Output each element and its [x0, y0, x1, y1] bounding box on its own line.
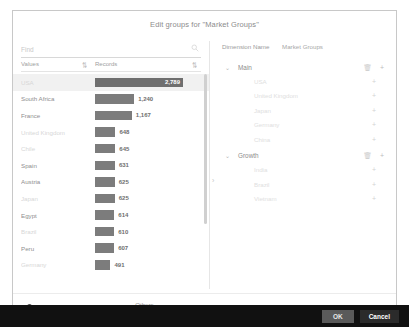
group-item[interactable]: China+ — [222, 132, 388, 147]
record-value: 648 — [119, 129, 129, 135]
cancel-button[interactable]: Cancel — [360, 310, 399, 323]
column-header-records-label: Records — [95, 61, 117, 67]
groups-container: ⌄Main🗑+USA+United Kingdom+Japan+Germany+… — [222, 60, 388, 206]
group-header[interactable]: ⌄Main🗑+ — [222, 60, 388, 74]
record-value: 2,789 — [165, 79, 183, 85]
group-header[interactable]: ⌄Growth🗑+ — [222, 149, 388, 163]
record-bar-cell: 491 — [95, 260, 201, 270]
dialog-title: Edit groups for "Market Groups" — [150, 20, 259, 29]
plus-icon[interactable]: + — [380, 64, 384, 71]
group-item[interactable]: Brazil+ — [222, 177, 388, 192]
values-list-scrollbar[interactable] — [204, 74, 207, 224]
edit-groups-dialog: Edit groups for "Market Groups" Values ⇅… — [12, 10, 397, 315]
plus-icon[interactable]: + — [372, 92, 388, 99]
value-label: Chile — [21, 145, 95, 152]
values-list[interactable]: USA2,789South Africa1,240France1,167Unit… — [13, 74, 209, 293]
group-item-label: USA — [254, 78, 372, 85]
group-actions: 🗑+ — [363, 152, 388, 159]
dialog-body: Values ⇅ Records ⇅ USA2,789South Africa1… — [13, 37, 396, 293]
value-label: Egypt — [21, 212, 95, 219]
record-bar — [95, 111, 132, 121]
value-label: Peru — [21, 245, 95, 252]
value-label: Brazil — [21, 228, 95, 235]
record-bar-cell: 2,789 — [95, 78, 201, 88]
plus-icon[interactable]: + — [380, 152, 384, 159]
group-item-label: China — [254, 136, 372, 143]
group: ⌄Main🗑+USA+United Kingdom+Japan+Germany+… — [222, 60, 388, 147]
record-bar — [95, 177, 115, 187]
record-value: 645 — [119, 146, 129, 152]
group-item[interactable]: USA+ — [222, 74, 388, 89]
record-bar — [95, 127, 115, 137]
record-value: 491 — [114, 262, 124, 268]
record-bar-cell: 625 — [95, 177, 201, 187]
group-name[interactable]: Main — [232, 64, 363, 71]
value-label: France — [21, 112, 95, 119]
table-row[interactable]: Germany491 — [13, 257, 209, 274]
record-bar-cell: 1,167 — [95, 111, 201, 121]
table-row[interactable]: Chile645 — [13, 140, 209, 157]
dimension-name-label: Dimension Name — [222, 43, 282, 50]
plus-icon[interactable]: + — [372, 181, 388, 188]
group-item[interactable]: Vietnam+ — [222, 192, 388, 207]
sort-icon-records[interactable]: ⇅ — [192, 60, 197, 69]
table-row[interactable]: Egypt614 — [13, 207, 209, 224]
group-item[interactable]: Japan+ — [222, 103, 388, 118]
plus-icon[interactable]: + — [372, 107, 388, 114]
record-value: 1,167 — [136, 112, 151, 118]
search-icon[interactable] — [191, 44, 199, 52]
group-item[interactable]: United Kingdom+ — [222, 89, 388, 104]
record-bar-cell: 625 — [95, 194, 201, 204]
group-name[interactable]: Growth — [232, 152, 363, 159]
table-row[interactable]: Austria625 — [13, 174, 209, 191]
plus-icon[interactable]: + — [372, 78, 388, 85]
record-value: 625 — [119, 195, 129, 201]
record-bar — [95, 243, 114, 253]
dimension-row: Dimension Name Market Groups — [222, 43, 388, 50]
table-row[interactable]: Spain631 — [13, 157, 209, 174]
values-panel: Values ⇅ Records ⇅ USA2,789South Africa1… — [13, 37, 209, 293]
table-row[interactable]: United Kingdom648 — [13, 124, 209, 141]
search-input[interactable] — [21, 46, 201, 53]
value-label: Japan — [21, 195, 95, 202]
sort-icon-values[interactable]: ⇅ — [82, 60, 87, 69]
plus-icon[interactable]: + — [372, 195, 388, 202]
record-bar-cell: 631 — [95, 161, 201, 171]
column-header-values[interactable]: Values ⇅ — [21, 61, 95, 68]
column-header-values-label: Values — [21, 61, 39, 67]
record-bar — [95, 194, 115, 204]
dialog-titlebar: Edit groups for "Market Groups" — [13, 11, 396, 37]
group-item-label: India — [254, 166, 372, 173]
group-item-label: Vietnam — [254, 195, 372, 202]
table-row[interactable]: Peru607 — [13, 240, 209, 257]
group-item-label: Germany — [254, 121, 372, 128]
table-row[interactable]: Japan625 — [13, 190, 209, 207]
record-bar — [95, 227, 114, 237]
plus-icon[interactable]: + — [372, 136, 388, 143]
plus-icon[interactable]: + — [372, 121, 388, 128]
table-row[interactable]: France1,167 — [13, 107, 209, 124]
value-label: USA — [21, 79, 95, 86]
group-item[interactable]: Germany+ — [222, 118, 388, 133]
record-bar-cell: 645 — [95, 144, 201, 154]
table-row[interactable]: USA2,789 — [13, 74, 209, 91]
record-bar — [95, 161, 115, 171]
list-column-headers: Values ⇅ Records ⇅ — [21, 61, 201, 72]
ok-button[interactable]: OK — [322, 310, 354, 323]
groups-panel: Dimension Name Market Groups ⌄Main🗑+USA+… — [210, 37, 396, 293]
plus-icon[interactable]: + — [372, 166, 388, 173]
record-bar — [95, 260, 110, 270]
table-row[interactable]: South Africa1,240 — [13, 91, 209, 108]
chevron-down-icon[interactable]: ⌄ — [222, 64, 232, 71]
group-item[interactable]: India+ — [222, 163, 388, 178]
chevron-down-icon[interactable]: ⌄ — [222, 152, 232, 159]
trash-icon[interactable]: 🗑 — [363, 152, 372, 159]
dialog-footer: OK Cancel — [0, 305, 409, 327]
record-bar-cell: 614 — [95, 210, 201, 220]
table-row[interactable]: Brazil610 — [13, 223, 209, 240]
trash-icon[interactable]: 🗑 — [363, 64, 372, 71]
column-header-records[interactable]: Records ⇅ — [95, 61, 201, 68]
record-value: 625 — [119, 179, 129, 185]
dimension-name-value[interactable]: Market Groups — [282, 43, 323, 50]
record-bar — [95, 210, 114, 220]
